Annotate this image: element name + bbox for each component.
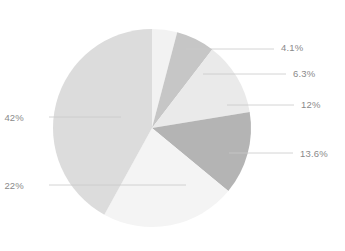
pie-slices <box>53 29 251 227</box>
slice-label: 12% <box>301 100 321 110</box>
slice-label: 42% <box>4 113 24 123</box>
pie-chart: 4.1%6.3%12%13.6%22%42% <box>0 0 345 251</box>
pie-chart-canvas <box>0 0 345 251</box>
slice-label: 22% <box>4 181 24 191</box>
slice-label: 4.1% <box>281 43 303 53</box>
slice-label: 13.6% <box>300 149 328 159</box>
slice-label: 6.3% <box>293 69 315 79</box>
